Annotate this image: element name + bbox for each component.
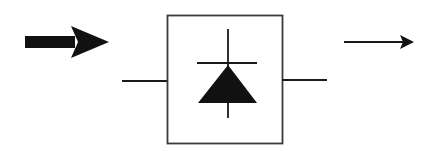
diode-icon [197,29,257,118]
input-arrow-icon [25,26,109,58]
diagram-svg [0,0,429,151]
output-arrow-icon [344,35,414,49]
diagram-canvas: Block diagram: thick input arrow, boxed … [0,0,429,151]
